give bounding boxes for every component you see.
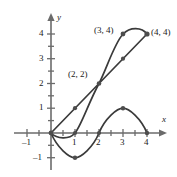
y-axis-arrow-icon: [47, 13, 54, 21]
y-tick-label-1: 1: [39, 103, 44, 112]
marker-sine-3-1: [121, 106, 125, 110]
x-tick-label-3: 3: [120, 138, 125, 147]
marker-sine-2-0: [97, 131, 101, 135]
marker-line-1-1: [73, 106, 77, 110]
graph-figure: x y –1 1 2 3 4 4 3 2 1 –1 (2, 2) (3, 4) …: [0, 0, 177, 177]
y-tick-label-2: 2: [39, 79, 44, 88]
marker-line-2-2: [97, 81, 102, 86]
x-axis-label: x: [162, 115, 166, 124]
x-tick-label-2: 2: [96, 138, 101, 147]
marker-cubic-1-0: [73, 131, 77, 135]
marker-origin: [49, 131, 54, 136]
y-tick-label--1: –1: [33, 153, 42, 162]
marker-line-3-3: [121, 57, 125, 61]
x-tick-label-1: 1: [72, 138, 77, 147]
x-tick-label-4: 4: [144, 138, 149, 147]
y-tick-label-3: 3: [39, 54, 44, 63]
marker-sine-1--1: [73, 156, 77, 160]
x-tick-label--1: –1: [22, 138, 31, 147]
y-axis-label: y: [57, 13, 61, 22]
x-axis-arrow-icon: [159, 129, 167, 136]
point-label-4-4: (4, 4): [151, 28, 171, 37]
marker-line-4-4: [144, 31, 149, 36]
marker-cubic-3-4: [121, 32, 126, 37]
marker-sine-4-0: [145, 131, 149, 135]
y-tick-label-4: 4: [39, 29, 44, 38]
point-label-2-2: (2, 2): [68, 70, 88, 79]
point-label-3-4: (3, 4): [94, 26, 114, 35]
